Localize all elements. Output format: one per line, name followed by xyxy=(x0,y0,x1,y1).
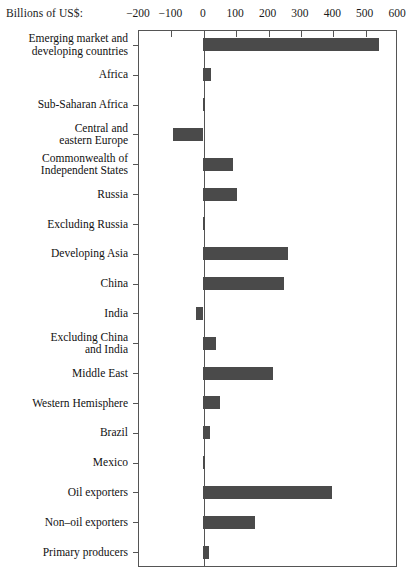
x-axis-tick-label: −200 xyxy=(126,7,150,19)
category-label: Primary producers xyxy=(0,546,128,559)
x-axis-tick-label: −100 xyxy=(159,7,183,19)
category-tick-mark xyxy=(133,45,138,46)
chart-row: Russia xyxy=(0,179,414,209)
category-label-line: India xyxy=(0,307,128,320)
x-axis-tick-label: 300 xyxy=(291,7,308,19)
category-label-line: Emerging market and xyxy=(0,32,128,45)
category-label-line: Developing Asia xyxy=(0,247,128,260)
x-axis-tick-label: 100 xyxy=(227,7,244,19)
category-label: Excluding Chinaand India xyxy=(0,331,128,356)
chart-row: Oil exporters xyxy=(0,478,414,508)
chart-root: Billions of US$: −200−100010020030040050… xyxy=(0,0,414,575)
category-label: Western Hemisphere xyxy=(0,397,128,410)
bar xyxy=(203,426,210,439)
category-label-line: developing countries xyxy=(0,45,128,58)
category-label-line: Excluding Russia xyxy=(0,218,128,231)
category-label-line: Western Hemisphere xyxy=(0,397,128,410)
bar xyxy=(196,307,202,320)
category-label: Sub-Saharan Africa xyxy=(0,98,128,111)
category-label-line: and India xyxy=(0,343,128,356)
x-axis-tick-label: 400 xyxy=(324,7,341,19)
chart-row: Central andeastern Europe xyxy=(0,120,414,150)
category-label: Developing Asia xyxy=(0,247,128,260)
category-label-line: Mexico xyxy=(0,456,128,469)
bar xyxy=(203,516,255,529)
bar xyxy=(203,546,209,559)
category-label: Africa xyxy=(0,68,128,81)
category-tick-mark xyxy=(133,403,138,404)
bar xyxy=(203,247,288,260)
chart-row: Africa xyxy=(0,60,414,90)
chart-row: Emerging market anddeveloping countries xyxy=(0,30,414,60)
category-tick-mark xyxy=(133,224,138,225)
category-label-line: Non–oil exporters xyxy=(0,516,128,529)
category-tick-mark xyxy=(133,492,138,493)
category-label-line: Independent States xyxy=(0,164,128,177)
bar xyxy=(203,367,273,380)
category-label: Commonwealth ofIndependent States xyxy=(0,152,128,177)
category-label: Brazil xyxy=(0,426,128,439)
category-tick-mark xyxy=(133,463,138,464)
category-label: Middle East xyxy=(0,367,128,380)
bar xyxy=(203,98,206,111)
category-label: Mexico xyxy=(0,456,128,469)
category-tick-mark xyxy=(133,134,138,135)
category-tick-mark xyxy=(133,194,138,195)
bar xyxy=(203,486,333,499)
chart-row: Brazil xyxy=(0,418,414,448)
x-axis-tick-label: 500 xyxy=(356,7,373,19)
category-tick-mark xyxy=(133,105,138,106)
category-label: China xyxy=(0,277,128,290)
category-label-line: Brazil xyxy=(0,426,128,439)
category-label: Oil exporters xyxy=(0,486,128,499)
category-label-line: Excluding China xyxy=(0,331,128,344)
category-tick-mark xyxy=(133,164,138,165)
category-label: Excluding Russia xyxy=(0,218,128,231)
bar xyxy=(203,217,205,230)
category-label-line: Middle East xyxy=(0,367,128,380)
chart-row: Excluding Russia xyxy=(0,209,414,239)
category-tick-mark xyxy=(133,373,138,374)
chart-row: Commonwealth ofIndependent States xyxy=(0,149,414,179)
category-tick-mark xyxy=(133,552,138,553)
chart-row: Primary producers xyxy=(0,537,414,567)
category-label: Emerging market anddeveloping countries xyxy=(0,32,128,57)
chart-row: India xyxy=(0,299,414,329)
bar-rows: Emerging market anddeveloping countriesA… xyxy=(0,30,414,567)
bar xyxy=(203,68,211,81)
chart-row: Middle East xyxy=(0,358,414,388)
bar xyxy=(173,128,203,141)
bar xyxy=(203,158,233,171)
category-label-line: Commonwealth of xyxy=(0,152,128,165)
chart-row: Excluding Chinaand India xyxy=(0,328,414,358)
chart-row: Non–oil exporters xyxy=(0,507,414,537)
category-label: Central andeastern Europe xyxy=(0,122,128,147)
x-axis-tick-label: 200 xyxy=(259,7,276,19)
bar xyxy=(203,38,379,51)
category-label-line: Africa xyxy=(0,68,128,81)
chart-row: Western Hemisphere xyxy=(0,388,414,418)
category-label-line: Sub-Saharan Africa xyxy=(0,98,128,111)
bar xyxy=(203,396,220,409)
chart-row: Developing Asia xyxy=(0,239,414,269)
chart-row: China xyxy=(0,269,414,299)
category-tick-mark xyxy=(133,522,138,523)
bar xyxy=(203,277,285,290)
bar xyxy=(203,337,216,350)
chart-row: Sub-Saharan Africa xyxy=(0,90,414,120)
category-tick-mark xyxy=(133,75,138,76)
category-label: Non–oil exporters xyxy=(0,516,128,529)
bar xyxy=(203,456,205,469)
category-tick-mark xyxy=(133,433,138,434)
category-tick-mark xyxy=(133,313,138,314)
x-axis-title: Billions of US$: xyxy=(6,7,83,19)
category-label-line: eastern Europe xyxy=(0,134,128,147)
category-tick-mark xyxy=(133,254,138,255)
category-label-line: Primary producers xyxy=(0,546,128,559)
bar xyxy=(203,188,238,201)
x-axis-tick-label: 0 xyxy=(200,7,206,19)
category-tick-mark xyxy=(133,343,138,344)
category-label: India xyxy=(0,307,128,320)
category-label-line: Oil exporters xyxy=(0,486,128,499)
category-tick-mark xyxy=(133,284,138,285)
